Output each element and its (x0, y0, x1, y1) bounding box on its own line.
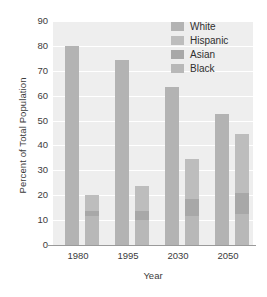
bar-chart: Percent of Total Population 010203040506… (0, 0, 267, 297)
legend-swatch-icon (171, 50, 184, 59)
legend-label: Hispanic (190, 36, 228, 46)
x-axis-tick-label: 2030 (155, 250, 201, 261)
y-axis-tick-label: 90 (26, 16, 48, 26)
y-axis-tick-labels: 0102030405060708090 (22, 0, 48, 297)
legend-item-black[interactable]: Black (171, 62, 263, 75)
y-axis-tick-label: 50 (26, 116, 48, 126)
bar-segment-hispanic (85, 195, 99, 211)
bar-segment-hispanic (235, 134, 249, 192)
bar-segment-hispanic (185, 159, 199, 199)
bar-segment-white (215, 114, 229, 245)
x-axis-tick-label: 1980 (55, 250, 101, 261)
y-axis-tick-label: 60 (26, 91, 48, 101)
bar-segment-black (85, 216, 99, 245)
bar-2050-white (215, 114, 229, 245)
bar-2030-white (165, 87, 179, 245)
bar-2050-minority (235, 134, 249, 245)
y-axis-tick-label: 30 (26, 165, 48, 175)
bar-segment-asian (185, 199, 199, 215)
x-axis-line (47, 245, 256, 246)
y-axis-tick-label: 0 (26, 240, 48, 250)
bar-segment-white (65, 46, 79, 245)
legend-swatch-icon (171, 22, 184, 31)
gridline (53, 96, 253, 97)
bar-segment-white (115, 60, 129, 245)
bar-segment-asian (135, 211, 149, 219)
legend-item-hispanic[interactable]: Hispanic (171, 34, 263, 47)
bar-2030-minority (185, 159, 199, 245)
legend-swatch-icon (171, 64, 184, 73)
bar-1980-minority (85, 195, 99, 245)
legend-label: Asian (190, 50, 215, 60)
bar-segment-black (235, 214, 249, 245)
bar-1995-minority (135, 186, 149, 245)
y-axis-tick-label: 80 (26, 41, 48, 51)
legend-item-white[interactable]: White (171, 20, 263, 33)
x-axis-tick-labels: 1980199520302050 (53, 250, 253, 266)
legend-swatch-icon (171, 36, 184, 45)
y-axis-tick-label: 20 (26, 190, 48, 200)
bar-segment-black (185, 216, 199, 245)
bar-segment-asian (235, 193, 249, 215)
x-axis-tick-label: 2050 (205, 250, 251, 261)
bar-1995-white (115, 60, 129, 245)
legend-item-asian[interactable]: Asian (171, 48, 263, 61)
chart-legend: WhiteHispanicAsianBlack (171, 20, 263, 76)
y-axis-tick-label: 10 (26, 215, 48, 225)
bar-1980-white (65, 46, 79, 245)
x-axis-tick-label: 1995 (105, 250, 151, 261)
x-axis-title: Year (53, 270, 253, 281)
bar-segment-black (135, 220, 149, 245)
legend-label: White (190, 22, 216, 32)
bar-segment-asian (85, 211, 99, 216)
bar-segment-hispanic (135, 186, 149, 211)
bar-segment-white (165, 87, 179, 245)
y-axis-tick-label: 40 (26, 140, 48, 150)
y-axis-tick-label: 70 (26, 66, 48, 76)
legend-label: Black (190, 64, 214, 74)
